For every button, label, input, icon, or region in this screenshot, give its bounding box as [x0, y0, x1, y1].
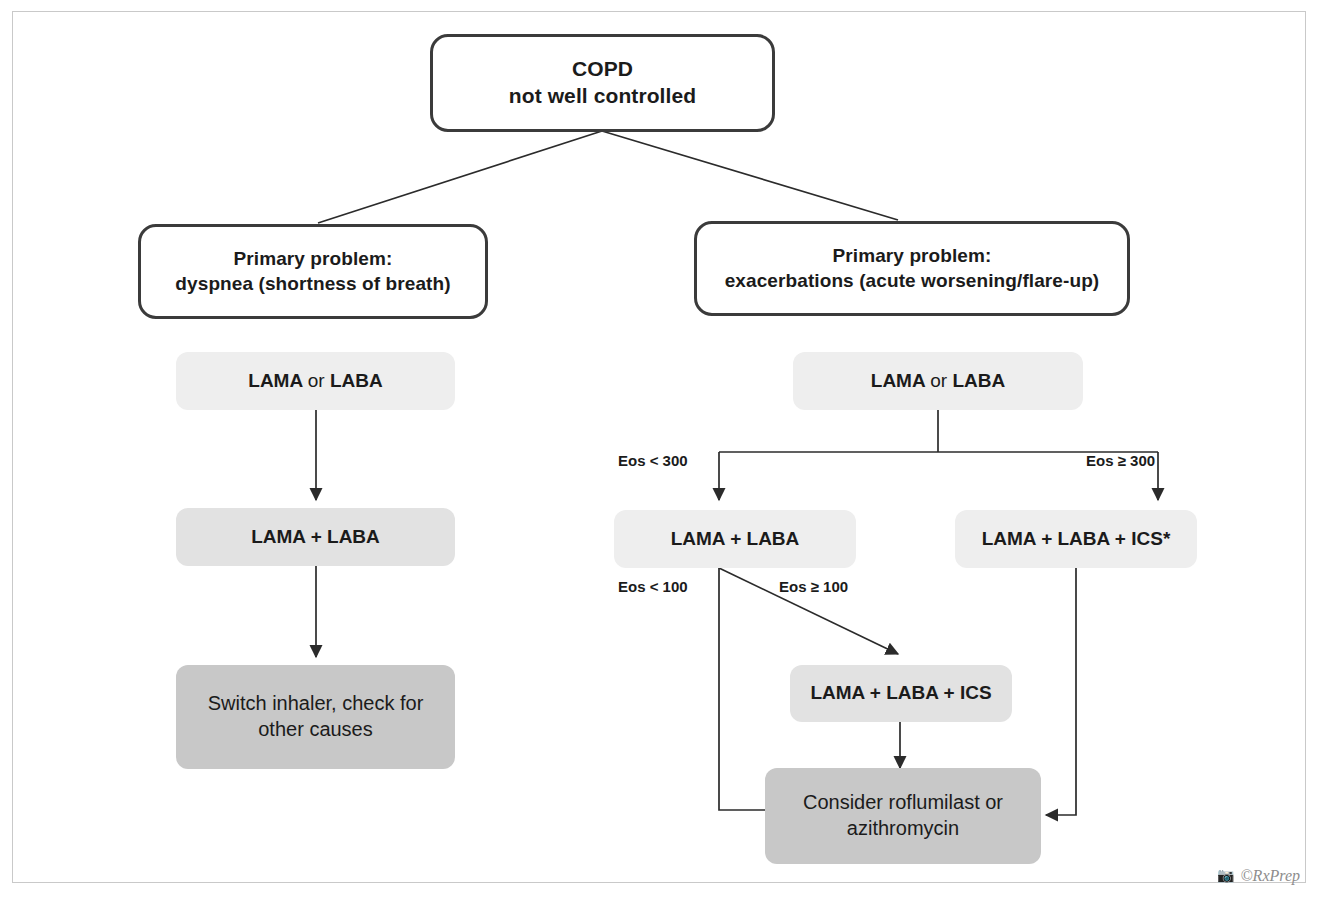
node-right-final-line2: azithromycin [847, 817, 959, 839]
node-left-lama-or-laba: LAMA or LABA [176, 352, 455, 410]
edge-label-eos-lt-300: Eos < 300 [618, 452, 688, 469]
node-branch-exacerbations: Primary problem: exacerbations (acute wo… [694, 221, 1130, 316]
node-right-low-eos-lama-laba: LAMA + LABA [614, 510, 856, 568]
node-root-line1: COPD [572, 57, 633, 80]
node-right-high-eos-lama-laba-ics-star: LAMA + LABA + ICS* [955, 510, 1197, 568]
node-right-lama-or-laba: LAMA or LABA [793, 352, 1083, 410]
node-right-mid-lama-laba-ics: LAMA + LABA + ICS [790, 665, 1012, 722]
node-root-copd: COPD not well controlled [430, 34, 775, 132]
node-left-lama-plus-laba: LAMA + LABA [176, 508, 455, 566]
edge-root-to-exacerbations [602, 131, 898, 220]
edge-label-eos-gte-100: Eos ≥ 100 [779, 578, 848, 595]
credit-text: ©RxPrep [1240, 867, 1300, 885]
node-left-step1-pre: LAMA [248, 370, 302, 391]
node-right-high-eos-text: LAMA + LABA + ICS* [982, 527, 1171, 551]
node-branch-dyspnea: Primary problem: dyspnea (shortness of b… [138, 224, 488, 319]
node-root-line2: not well controlled [509, 84, 696, 107]
node-right-step1-mid: or [930, 370, 947, 391]
edge-ics-star-to-final [1046, 568, 1076, 815]
node-right-step1-post: LABA [952, 370, 1005, 391]
node-branch-exacerbations-line1: Primary problem: [833, 245, 992, 266]
node-left-step1-post: LABA [330, 370, 383, 391]
node-left-step3-line2: other causes [258, 718, 373, 740]
node-left-step2-text: LAMA + LABA [251, 525, 380, 549]
edge-label-eos-lt-100: Eos < 100 [618, 578, 688, 595]
node-right-step1-pre: LAMA [871, 370, 925, 391]
edge-label-eos-gte-300: Eos ≥ 300 [1086, 452, 1155, 469]
node-right-final-line1: Consider roflumilast or [803, 791, 1003, 813]
flowchart-canvas: COPD not well controlled Primary problem… [0, 0, 1322, 907]
camera-icon: 📷 [1217, 869, 1234, 883]
node-branch-dyspnea-line1: Primary problem: [234, 248, 393, 269]
node-left-step3-line1: Switch inhaler, check for [208, 692, 424, 714]
node-left-step1-mid: or [308, 370, 325, 391]
node-left-switch-inhaler: Switch inhaler, check for other causes [176, 665, 455, 769]
node-branch-exacerbations-line2: exacerbations (acute worsening/flare-up) [725, 270, 1100, 291]
credit-watermark: 📷 ©RxPrep [1217, 867, 1300, 885]
node-right-final-roflumilast: Consider roflumilast or azithromycin [765, 768, 1041, 864]
node-branch-dyspnea-line2: dyspnea (shortness of breath) [175, 273, 450, 294]
edge-root-to-dyspnea [318, 131, 602, 223]
node-right-mid-ics-text: LAMA + LABA + ICS [810, 681, 991, 705]
node-right-low-eos-text: LAMA + LABA [671, 527, 800, 551]
